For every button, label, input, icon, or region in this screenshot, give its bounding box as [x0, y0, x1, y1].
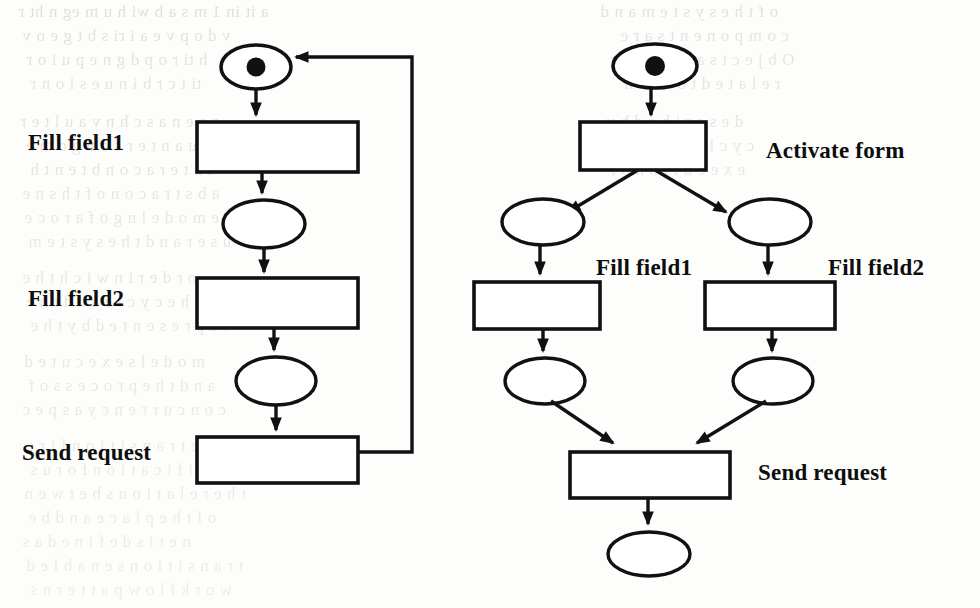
- left-place-p2: [236, 357, 316, 405]
- left-transition-fill-field2: [197, 278, 358, 328]
- right-transition-send-request: [570, 452, 730, 498]
- left-transition-send-request: [197, 437, 358, 483]
- right-transition-fill-field2: [705, 282, 835, 329]
- left-token-p0: [247, 58, 266, 77]
- right-place-q1: [502, 199, 584, 245]
- right-token-q0: [645, 56, 665, 76]
- right-place-q2: [729, 199, 811, 245]
- petri-net-figure: [0, 0, 980, 608]
- right-transition-activate-form: [580, 122, 706, 170]
- petri-net-svg: [0, 0, 980, 608]
- scanned-page: a it in 1 m s a b wi h u m eg n ht rv d …: [0, 0, 980, 608]
- right-arc-q3-u3: [551, 401, 613, 443]
- right-arc-u0-q2: [655, 170, 726, 212]
- right-place-q4: [733, 358, 813, 404]
- right-arc-u0-q1: [568, 170, 638, 212]
- label-left-fill-field1: Fill field1: [28, 130, 124, 156]
- label-right-fill-field2: Fill field2: [828, 255, 924, 281]
- left-arc-loop-back: [296, 57, 412, 452]
- right-place-q3: [505, 358, 585, 404]
- left-transition-fill-field1: [197, 122, 358, 172]
- label-left-fill-field2: Fill field2: [28, 286, 124, 312]
- label-right-fill-field1: Fill field1: [596, 255, 692, 281]
- label-right-send-request: Send request: [758, 460, 887, 486]
- right-place-q5: [608, 532, 690, 576]
- right-transition-fill-field1: [474, 282, 600, 329]
- label-right-activate-form: Activate form: [766, 138, 905, 164]
- right-arc-q4-u3: [697, 401, 766, 443]
- left-place-p1: [223, 200, 305, 248]
- label-left-send-request: Send request: [22, 440, 151, 466]
